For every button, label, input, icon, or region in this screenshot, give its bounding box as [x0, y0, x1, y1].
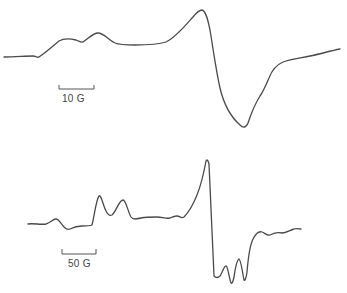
epr-spectra-figure: 10 G 50 G	[0, 0, 347, 293]
bottom-scale-label: 50 G	[68, 258, 91, 269]
top-spectrum-trace	[4, 10, 340, 127]
spectra-canvas	[0, 0, 347, 293]
top-scale-bar	[59, 85, 94, 89]
top-scale-label: 10 G	[62, 93, 85, 104]
bottom-scale-bar	[62, 249, 96, 254]
